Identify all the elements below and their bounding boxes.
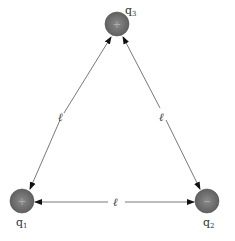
side-label-q1-q2: ℓ: [113, 196, 118, 209]
side-label-q1-q3: ℓ: [58, 111, 63, 124]
side-q1-q3: ℓ: [30, 37, 111, 189]
plus-sign-icon: +: [113, 19, 121, 30]
plus-sign-icon: +: [18, 196, 26, 207]
charge-q1: + q1: [10, 189, 34, 230]
charge-q2: − q2: [195, 189, 219, 230]
side-q1-q2: ℓ: [35, 196, 194, 209]
minus-sign-icon: −: [203, 196, 211, 207]
charge-label-q2: q2: [203, 216, 215, 230]
side-label-q2-q3: ℓ: [159, 111, 164, 124]
side-q2-q3: ℓ: [123, 37, 200, 189]
charge-q3: + q3: [105, 4, 137, 36]
charge-label-q3: q3: [125, 4, 137, 18]
charge-triangle-diagram: ℓ ℓ ℓ + q3 + q1 − q2: [0, 0, 235, 241]
charge-label-q1: q1: [16, 216, 28, 230]
